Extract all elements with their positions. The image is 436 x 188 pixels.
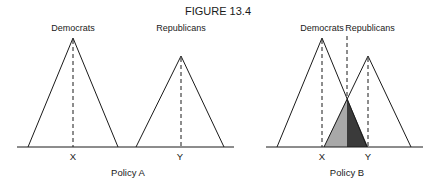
policy-a-republicans-label: Republicans: [156, 23, 206, 33]
policy-b-democrats-label: Democrats: [300, 23, 344, 33]
policy-a-republicans-distribution: [136, 56, 224, 147]
policy-b-caption: Policy B: [330, 167, 364, 178]
panel-policy-a: Democrats X Republicans Y Policy A: [17, 23, 234, 178]
policy-a-caption: Policy A: [111, 167, 145, 178]
policy-b-y-label: Y: [365, 151, 372, 162]
panel-policy-b: Democrats X Republicans Y Policy B: [266, 23, 423, 178]
figure-13-4: FIGURE 13.4 Democrats X Republicans Y Po…: [0, 0, 436, 188]
policy-b-x-label: X: [319, 151, 326, 162]
policy-a-x-label: X: [70, 151, 77, 162]
figure-title: FIGURE 13.4: [185, 5, 251, 17]
policy-a-democrats-label: Democrats: [51, 23, 95, 33]
policy-a-y-label: Y: [177, 151, 184, 162]
policy-b-republicans-label: Republicans: [345, 23, 395, 33]
